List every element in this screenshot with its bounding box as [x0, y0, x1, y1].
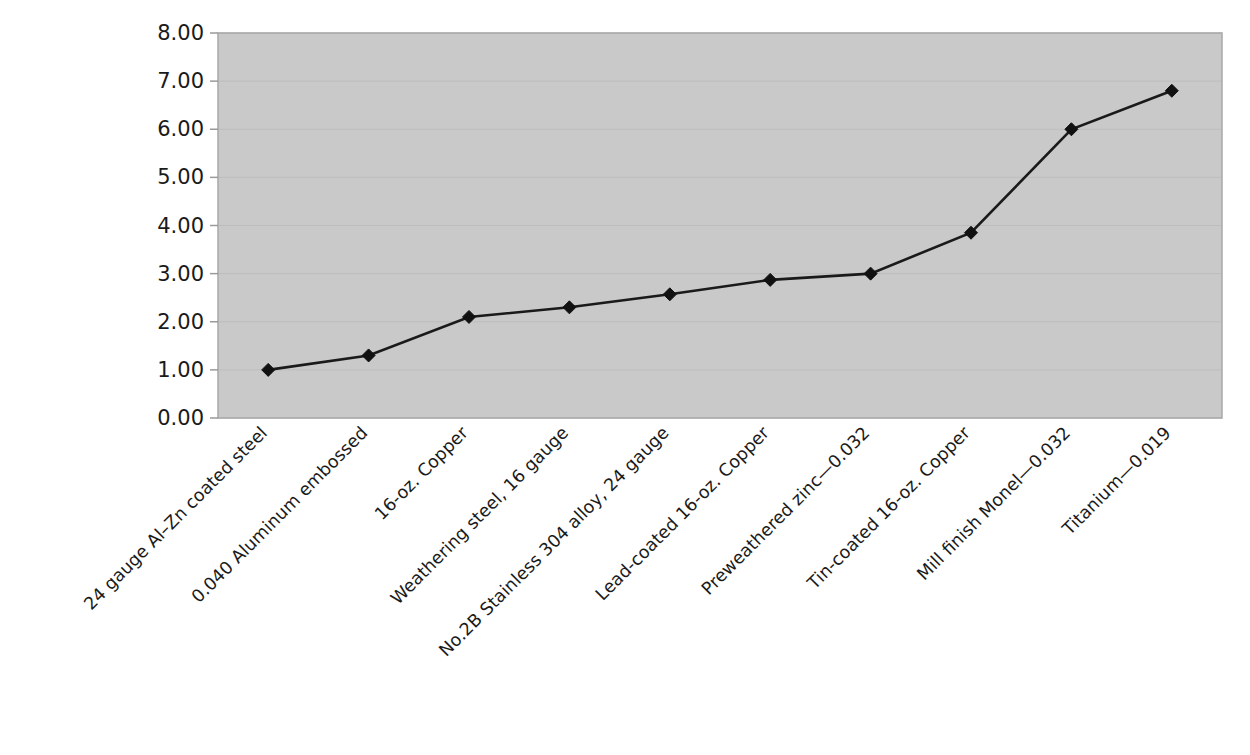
y-axis-tick-label: 8.00	[157, 21, 204, 45]
x-axis-tick-label: No.2B Stainless 304 alloy, 24 gauge	[435, 423, 673, 661]
x-axis-tick-label: Tin-coated 16-oz. Copper	[803, 422, 975, 594]
x-axis-tick-label: Preweathered zinc—0.032	[697, 423, 873, 599]
y-axis-tick-label: 0.00	[157, 406, 204, 430]
x-axis-tick-labels: 24 gauge Al–Zn coated steel0.040 Aluminu…	[80, 422, 1175, 660]
x-axis-tick-label: Titanium—0.019	[1058, 423, 1175, 540]
line-chart: 8.007.006.005.004.003.002.001.000.00 24 …	[0, 0, 1250, 755]
y-axis-tick-label: 6.00	[157, 117, 204, 141]
chart-canvas: 8.007.006.005.004.003.002.001.000.00 24 …	[0, 0, 1250, 755]
y-axis-tick-label: 5.00	[157, 165, 204, 189]
x-axis-tick-label: 0.040 Aluminum embossed	[188, 423, 372, 607]
y-axis-tick-label: 1.00	[157, 358, 204, 382]
y-axis-tick-label: 3.00	[157, 262, 204, 286]
y-axis-tick-label: 7.00	[157, 69, 204, 93]
y-axis-tick-labels: 8.007.006.005.004.003.002.001.000.00	[157, 21, 204, 430]
x-axis-tick-label: 24 gauge Al–Zn coated steel	[80, 423, 271, 614]
x-axis-tick-label: Lead-coated 16-oz. Copper	[591, 422, 773, 604]
x-axis-tick-label: 16-oz. Copper	[371, 422, 473, 524]
y-axis-tickmarks	[210, 33, 218, 418]
y-axis-tick-label: 4.00	[157, 214, 204, 238]
x-axis-tick-label: Weathering steel, 16 gauge	[387, 423, 573, 609]
y-axis-tick-label: 2.00	[157, 310, 204, 334]
